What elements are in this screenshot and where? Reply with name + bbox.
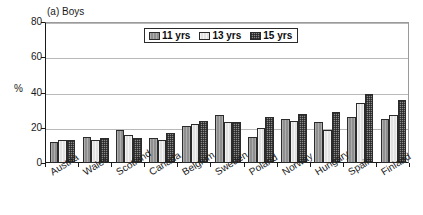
x-axis-tick-label: Wales bbox=[81, 153, 110, 177]
x-axis-tick-label: Scotland bbox=[114, 147, 153, 177]
x-axis-tick-mark bbox=[45, 163, 46, 167]
legend-item-1: 13 yrs bbox=[199, 31, 241, 41]
x-axis-tick-mark bbox=[177, 163, 178, 167]
x-axis-tick-mark bbox=[409, 163, 410, 167]
x-axis-tick-label: Hungary bbox=[313, 148, 351, 177]
x-axis-tick-mark bbox=[277, 163, 278, 167]
x-axis-tick-mark bbox=[111, 163, 112, 167]
chart-legend: 11 yrs 13 yrs 15 yrs bbox=[144, 28, 298, 43]
legend-swatch-icon-11yrs bbox=[149, 32, 160, 40]
legend-swatch-icon-15yrs bbox=[250, 32, 261, 40]
x-axis-tick-mark bbox=[144, 163, 145, 167]
y-axis-tick-mark bbox=[41, 93, 45, 94]
x-axis-tick-label: Finland bbox=[379, 151, 413, 178]
legend-label-11yrs: 11 yrs bbox=[162, 31, 190, 41]
legend-label-15yrs: 15 yrs bbox=[263, 31, 292, 41]
x-axis-tick-mark bbox=[244, 163, 245, 167]
legend-label-13yrs: 13 yrs bbox=[212, 31, 241, 41]
y-axis-tick-mark bbox=[41, 128, 45, 129]
x-axis-tick-label: Austria bbox=[48, 152, 80, 178]
x-axis-tick-mark bbox=[210, 163, 211, 167]
y-axis-tick-mark bbox=[41, 57, 45, 58]
x-axis-tick-label: Poland bbox=[247, 151, 279, 177]
y-axis-tick-mark bbox=[41, 22, 45, 23]
legend-item-0: 11 yrs bbox=[149, 31, 190, 41]
legend-swatch-icon-13yrs bbox=[199, 32, 210, 40]
chart-figure: (a) Boys % 020406080 AustriaWalesScotlan… bbox=[0, 0, 423, 215]
x-axis-tick-mark bbox=[343, 163, 344, 167]
x-axis-tick-mark bbox=[376, 163, 377, 167]
x-axis-tick-mark bbox=[310, 163, 311, 167]
x-axis-tick-mark bbox=[78, 163, 79, 167]
legend-item-2: 15 yrs bbox=[250, 31, 292, 41]
